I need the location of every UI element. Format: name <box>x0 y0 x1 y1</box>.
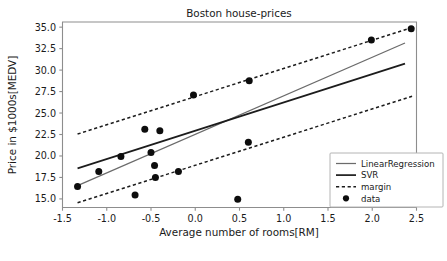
y-tick-label: 25.0 <box>35 108 56 119</box>
x-tick-label: 1.0 <box>276 213 291 224</box>
x-tick-label: -1.5 <box>53 213 72 224</box>
y-tick-label: 30.0 <box>35 65 56 76</box>
legend-label: margin <box>361 182 391 192</box>
data-point <box>151 162 158 169</box>
data-point <box>190 91 197 98</box>
legend-label: data <box>361 194 380 204</box>
chart-title: Boston house-prices <box>186 7 292 19</box>
data-point <box>156 127 163 134</box>
x-tick-label: -1.0 <box>97 213 116 224</box>
x-tick-label: 2.5 <box>409 213 424 224</box>
data-point <box>132 192 139 199</box>
data-point <box>368 37 375 44</box>
y-tick-label: 15.0 <box>35 193 56 204</box>
y-axis-ticks: 15.017.520.022.525.027.530.032.535.0 <box>35 22 63 205</box>
data-point <box>148 149 155 156</box>
data-point <box>152 174 159 181</box>
y-tick-label: 20.0 <box>35 150 56 161</box>
data-point <box>175 168 182 175</box>
y-tick-label: 17.5 <box>35 172 56 183</box>
y-tick-label: 27.5 <box>35 86 56 97</box>
data-point <box>246 77 253 84</box>
data-point <box>245 139 252 146</box>
data-point <box>117 153 124 160</box>
legend-swatch-data <box>343 195 349 201</box>
chart-legend[interactable]: LinearRegressionSVRmargindata <box>330 153 443 207</box>
data-point <box>408 25 415 32</box>
legend-label: LinearRegression <box>361 159 435 169</box>
x-tick-label: 1.5 <box>320 213 335 224</box>
x-axis-label: Average number of rooms[RM] <box>159 226 319 238</box>
data-point <box>141 126 148 133</box>
scatter-plot-canvas: -1.5-1.0-0.50.00.51.01.52.02.5 15.017.52… <box>0 0 447 261</box>
y-tick-label: 32.5 <box>35 43 56 54</box>
y-axis-label: Price in $1000s[MEDV] <box>6 56 18 174</box>
margin-line-upper <box>78 28 413 134</box>
data-point <box>234 196 241 203</box>
y-tick-label: 22.5 <box>35 129 56 140</box>
x-tick-label: 2.0 <box>365 213 380 224</box>
x-tick-label: 0.0 <box>188 213 203 224</box>
x-tick-label: 0.5 <box>232 213 247 224</box>
x-axis-ticks: -1.5-1.0-0.50.00.51.01.52.02.5 <box>53 208 424 224</box>
legend-label: SVR <box>361 170 378 180</box>
data-point <box>95 168 102 175</box>
data-point <box>74 183 81 190</box>
y-tick-label: 35.0 <box>35 22 56 33</box>
chart-figure: -1.5-1.0-0.50.00.51.01.52.02.5 15.017.52… <box>0 0 447 261</box>
x-tick-label: -0.5 <box>142 213 161 224</box>
